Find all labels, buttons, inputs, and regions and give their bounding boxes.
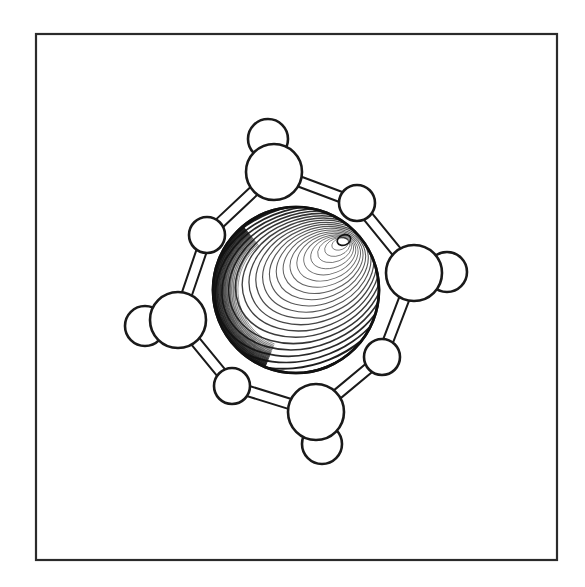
- molecule-diagram: [0, 0, 585, 587]
- ring-atom-O-upper-left: [189, 217, 225, 253]
- ring-atom-O-lower-left: [214, 368, 250, 404]
- ring-atom-O-lower-right: [364, 339, 400, 375]
- ring-atom-N-right: [386, 245, 442, 301]
- ring-atom-O-upper-right: [339, 185, 375, 221]
- ring-atom-N-left: [150, 292, 206, 348]
- ring-atom-N-top: [246, 144, 302, 200]
- ring-atom-N-bottom: [288, 384, 344, 440]
- figure-canvas: [0, 0, 585, 587]
